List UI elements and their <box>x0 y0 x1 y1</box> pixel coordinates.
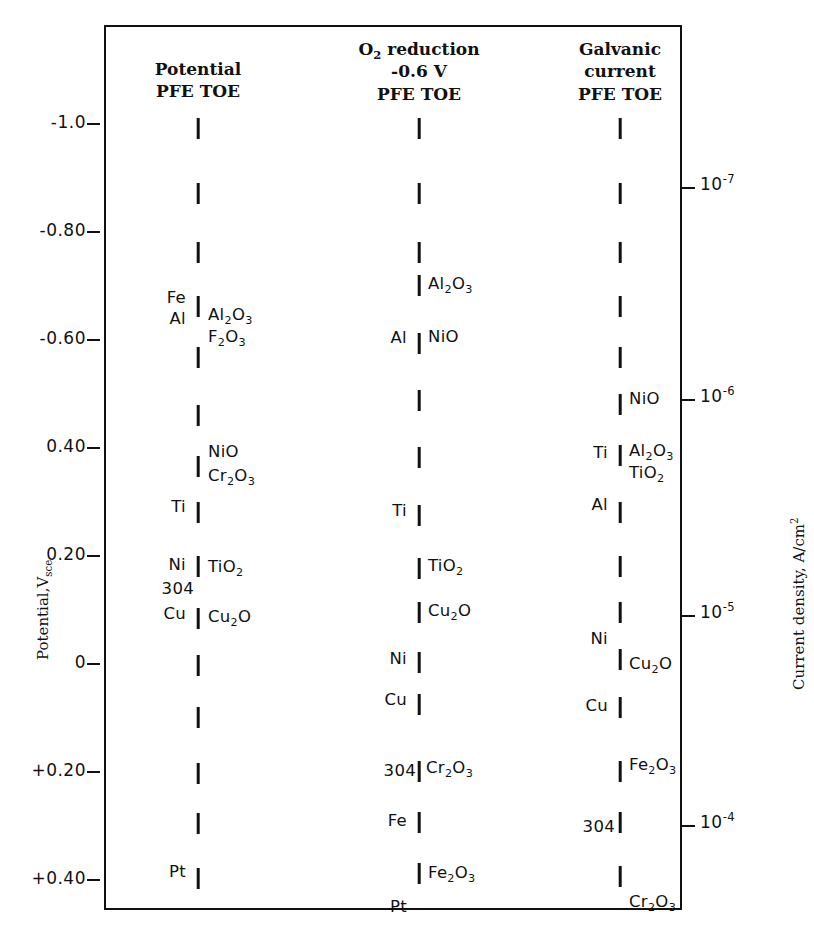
species-label: Cu2O <box>208 608 251 626</box>
formula-text: O <box>659 654 672 673</box>
formula-text: Al <box>428 274 444 293</box>
species-label: Fe2O3 <box>629 756 677 774</box>
column-tick-mark <box>418 863 421 884</box>
column-tick-mark <box>197 608 200 629</box>
species-label: Cu <box>163 605 186 623</box>
column-tick-mark <box>197 347 200 368</box>
left-axis-tick-mark <box>87 879 100 881</box>
formula-text: O <box>455 863 468 882</box>
column-tick-mark <box>418 505 421 526</box>
column-tick-mark <box>619 394 622 415</box>
column-tick-mark <box>197 502 200 523</box>
column-tick-mark <box>418 812 421 833</box>
formula-text: O <box>452 758 465 777</box>
formula-text: Cr <box>208 466 227 485</box>
species-label: 304 <box>583 818 615 836</box>
column-header-line: PFE TOE <box>578 83 662 105</box>
right-axis-title: Current density, A/cm2 <box>790 518 808 691</box>
column-tick-mark <box>418 118 421 139</box>
formula-subscript: 3 <box>669 901 676 914</box>
right-axis-tick-mark <box>682 825 695 827</box>
formula-text: NiO <box>208 442 239 461</box>
column-tick-mark <box>619 242 622 263</box>
species-label: TiO2 <box>428 557 464 575</box>
formula-subscript: 2 <box>652 663 659 676</box>
formula-subscript: 3 <box>666 450 673 463</box>
header-text: O <box>358 39 373 59</box>
potential-column-header: PotentialPFE TOE <box>155 58 241 103</box>
column-tick-mark <box>418 390 421 411</box>
column-header-line: current <box>578 60 662 82</box>
left-axis-tick-mark <box>87 339 100 341</box>
left-axis-tick-mark <box>87 771 100 773</box>
species-label: NiO <box>629 390 660 408</box>
formula-subscript: 2 <box>231 616 238 629</box>
species-label: Fe <box>388 812 407 830</box>
column-tick-mark <box>418 242 421 263</box>
left-axis-tick-label: +0.40 <box>31 868 86 888</box>
column-tick-mark <box>619 866 622 887</box>
right-axis-tick-label: 10-6 <box>700 386 735 406</box>
column-tick-mark <box>619 697 622 718</box>
species-label: Cu <box>585 697 608 715</box>
header-text: reduction <box>381 39 479 59</box>
left-axis-title: Potential,Vsce <box>34 560 52 660</box>
species-label: Ti <box>593 444 608 462</box>
formula-text: O <box>232 305 245 324</box>
formula-subscript: 2 <box>236 566 243 579</box>
species-label: Cu2O <box>428 602 471 620</box>
column-tick-mark <box>197 763 200 784</box>
formula-subscript: 2 <box>224 314 231 327</box>
species-label: Ni <box>168 556 186 574</box>
species-label: 304 <box>384 762 416 780</box>
left-axis-tick-mark <box>87 231 100 233</box>
formula-text: Fe <box>428 863 447 882</box>
species-label: Ti <box>392 502 407 520</box>
species-label: Cr2O3 <box>208 467 255 485</box>
column-tick-mark <box>197 813 200 834</box>
formula-text: Cu <box>428 601 451 620</box>
formula-text: O <box>238 607 251 626</box>
column-tick-mark <box>197 456 200 477</box>
formula-text: TiO <box>428 556 456 575</box>
column-tick-mark <box>418 694 421 715</box>
right-axis-title-text: Current density, A/cm <box>790 524 808 690</box>
formula-subscript: 2 <box>451 610 458 623</box>
left-axis-tick-mark <box>87 447 100 449</box>
left-axis-tick-mark <box>87 663 100 665</box>
formula-subscript: 2 <box>648 764 655 777</box>
formula-text: O <box>653 441 666 460</box>
left-axis-ticks: -1.0-0.80-0.600.400.200+0.20+0.40 <box>0 0 104 952</box>
right-axis-tick-mark <box>682 399 695 401</box>
header-subscript: 2 <box>373 48 381 62</box>
column-tick-mark <box>619 296 622 317</box>
formula-text: F <box>208 327 218 346</box>
right-axis-tick-mark <box>682 615 695 617</box>
species-label: F2O3 <box>208 328 246 346</box>
right-axis-tick-mantissa: 10 <box>700 602 723 622</box>
species-label: Al <box>391 329 407 347</box>
column-header-line: PFE TOE <box>358 83 479 105</box>
formula-subscript: 2 <box>447 872 454 885</box>
formula-text: O <box>234 466 247 485</box>
species-label: Pt <box>390 898 407 916</box>
formula-text: Fe <box>629 755 648 774</box>
species-label: 304 <box>162 580 194 598</box>
left-axis-tick-label: 0 <box>75 652 86 672</box>
column-tick-mark <box>197 405 200 426</box>
column-tick-mark <box>197 183 200 204</box>
left-axis-tick-label: -1.0 <box>51 112 86 132</box>
column-tick-mark <box>619 649 622 670</box>
formula-text: O <box>656 755 669 774</box>
column-tick-mark <box>418 183 421 204</box>
formula-text: O <box>458 601 471 620</box>
column-tick-mark <box>619 118 622 139</box>
species-label: Ni <box>590 630 608 648</box>
formula-subscript: 3 <box>245 314 252 327</box>
formula-subscript: 3 <box>248 475 255 488</box>
formula-subscript: 3 <box>465 283 472 296</box>
left-axis-title-subscript: sce <box>43 560 54 577</box>
column-tick-mark <box>619 602 622 623</box>
species-label: TiO2 <box>629 464 665 482</box>
formula-text: Cr <box>629 892 648 911</box>
